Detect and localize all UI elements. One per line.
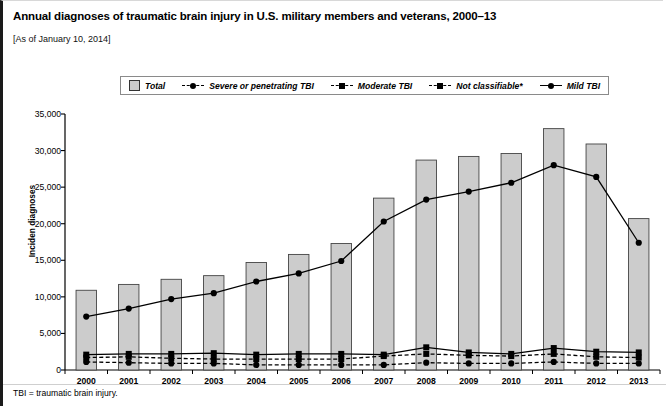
data-point-marker-circle (253, 278, 259, 284)
bar-total (501, 153, 521, 370)
data-point-marker-circle (83, 314, 89, 320)
data-point-marker-circle (508, 360, 514, 366)
data-point-marker-square (338, 351, 344, 357)
data-point-marker-circle (466, 360, 472, 366)
data-point-marker-circle (551, 162, 557, 168)
data-point-marker-square (211, 350, 217, 356)
data-point-marker-square (551, 345, 557, 351)
data-point-marker-circle (423, 360, 429, 366)
data-point-marker-circle (296, 362, 302, 368)
data-point-marker-circle (593, 174, 599, 180)
data-point-marker-square (296, 356, 302, 362)
data-point-marker-square (508, 353, 514, 359)
data-point-marker-square (253, 356, 259, 362)
data-point-marker-square (296, 351, 302, 357)
data-point-marker-square (168, 355, 174, 361)
data-point-marker-square (636, 349, 642, 355)
data-point-marker-square (338, 356, 344, 362)
data-point-marker-square (593, 349, 599, 355)
data-point-marker-square (381, 353, 387, 359)
footnote-divider (3, 384, 666, 385)
data-point-marker-square (593, 354, 599, 360)
data-point-marker-square (211, 356, 217, 362)
data-point-marker-square (126, 354, 132, 360)
data-point-marker-circle (338, 362, 344, 368)
data-point-marker-circle (296, 270, 302, 276)
data-point-marker-circle (593, 360, 599, 366)
data-point-marker-circle (551, 359, 557, 365)
data-point-marker-circle (338, 258, 344, 264)
data-point-marker-square (466, 352, 472, 358)
data-point-marker-circle (381, 218, 387, 224)
chart-canvas (3, 1, 666, 406)
chart-plot-area: Inciden diagnoses 05,00010,00015,00020,0… (3, 1, 666, 406)
data-point-marker-circle (636, 240, 642, 246)
data-point-marker-square (551, 351, 557, 357)
data-point-marker-circle (253, 362, 259, 368)
data-point-marker-circle (211, 290, 217, 296)
data-point-marker-square (423, 351, 429, 357)
data-point-marker-circle (126, 305, 132, 311)
data-point-marker-square (636, 355, 642, 361)
data-point-marker-circle (508, 180, 514, 186)
data-point-marker-circle (126, 360, 132, 366)
data-point-marker-square (423, 344, 429, 350)
data-point-marker-circle (168, 296, 174, 302)
footnote-tbi-definition: TBI = traumatic brain injury. (13, 388, 118, 398)
bar-total (416, 160, 436, 370)
data-point-marker-square (83, 355, 89, 361)
data-point-marker-circle (466, 188, 472, 194)
data-point-marker-circle (636, 360, 642, 366)
data-point-marker-circle (423, 196, 429, 202)
data-point-marker-circle (381, 362, 387, 368)
